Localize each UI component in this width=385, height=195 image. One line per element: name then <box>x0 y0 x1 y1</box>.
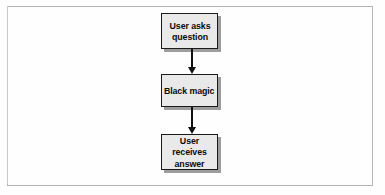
arrow-head-icon <box>188 67 196 74</box>
flow-node-label: Black magic <box>164 85 215 97</box>
flow-node-label: User receives answer <box>164 135 215 170</box>
flow-arrow-question-to-black-magic <box>188 49 197 74</box>
arrow-shaft <box>191 49 193 68</box>
figure-container: User asks question Black magic User rece… <box>0 0 385 195</box>
flow-node-user-receives-answer: User receives answer <box>161 134 218 170</box>
flow-node-black-magic: Black magic <box>161 74 218 107</box>
flowchart-canvas: User asks question Black magic User rece… <box>0 0 385 195</box>
arrow-head-icon <box>188 127 196 134</box>
arrow-shaft <box>191 107 193 128</box>
flow-arrow-black-magic-to-answer <box>188 107 197 134</box>
flow-node-label: User asks question <box>169 20 210 43</box>
flow-node-user-asks-question: User asks question <box>161 13 218 49</box>
